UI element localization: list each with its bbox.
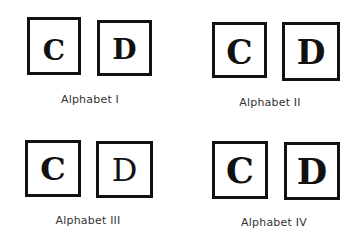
letter-c: C [226,153,254,188]
group-label: Alphabet II [200,96,340,109]
letter-box-d: D [96,141,153,198]
letter-box-c: C [25,140,81,197]
letter-box-c: C [212,22,267,78]
letter-d: D [297,154,327,189]
group-label: Alphabet IV [204,216,344,229]
letter-d: D [297,36,326,69]
letter-d: D [112,154,138,186]
group-label: Alphabet III [18,214,158,227]
letter-d: D [112,36,136,64]
letter-c: C [43,37,65,65]
letter-box-d: D [284,142,340,200]
letter-c: C [40,153,65,185]
letter-box-c: C [27,17,81,75]
letter-c: C [226,36,252,69]
letter-box-d: D [282,22,340,81]
letter-box-d: D [97,20,152,76]
letter-box-c: C [212,141,268,199]
group-label: Alphabet I [20,93,160,106]
